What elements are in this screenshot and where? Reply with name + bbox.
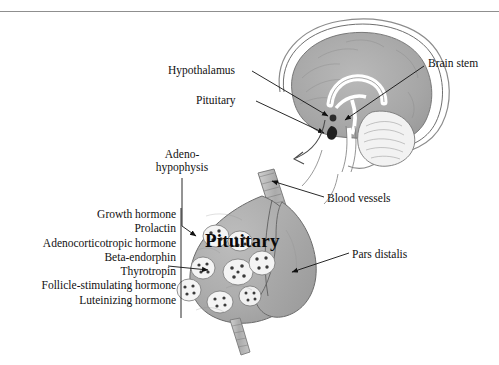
brain-sagittal-illustration: [279, 19, 449, 204]
gland-title: Pituitary: [205, 230, 280, 252]
hormone-item: Prolactin: [0, 221, 176, 235]
hormone-label-list: Growth hormone Prolactin Adenocorticotro…: [0, 207, 176, 307]
hormone-item: Thyrotropin: [0, 264, 176, 278]
label-pars-distalis: Pars distalis: [352, 248, 407, 262]
label-adenohypophysis-line1: Adeno-: [165, 148, 200, 160]
hormone-item: Luteinizing hormone: [0, 293, 176, 307]
label-adenohypophysis-line2: hypophysis: [156, 161, 208, 173]
label-brain-stem: Brain stem: [428, 57, 478, 71]
illustration-layer: [0, 0, 499, 365]
label-adenohypophysis: Adeno- hypophysis: [152, 148, 212, 174]
hormone-item: Growth hormone: [0, 207, 176, 221]
figure-pituitary-anatomy: Hypothalamus Pituitary Brain stem Adeno-…: [0, 0, 499, 365]
pituitary-gland-illustration: [177, 169, 316, 355]
hormone-item: Follicle-stimulating hormone: [0, 278, 176, 292]
leader-adeno-arrow: [182, 226, 196, 236]
label-hypothalamus: Hypothalamus: [168, 64, 235, 78]
hypothalamus-marker: [330, 115, 337, 122]
label-pituitary-brain: Pituitary: [196, 94, 236, 108]
hormone-item: Beta-endorphin: [0, 250, 176, 264]
hormone-item: Adenocorticotropic hormone: [0, 236, 176, 250]
label-blood-vessels: Blood vessels: [327, 192, 391, 206]
